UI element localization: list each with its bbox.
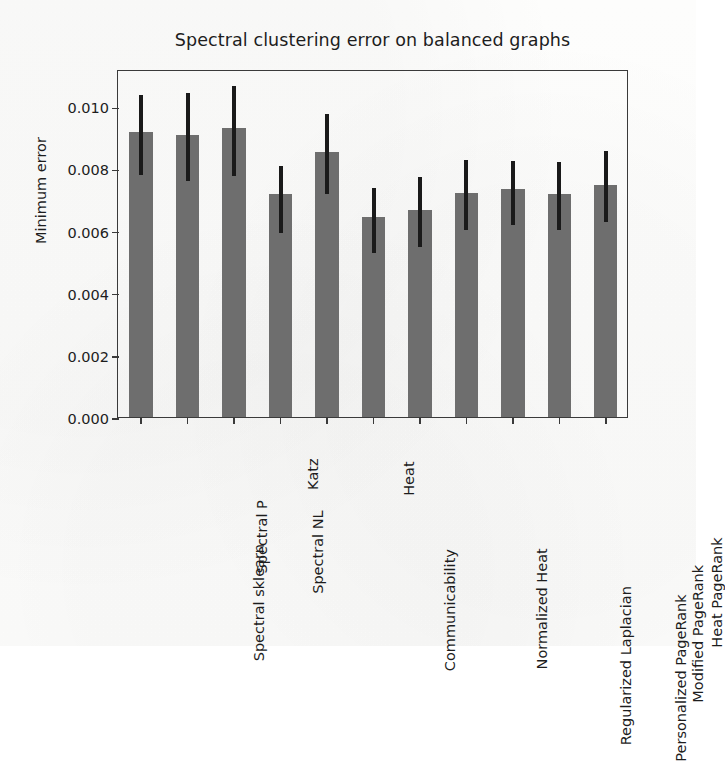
- error-bar: [511, 161, 515, 225]
- x-axis-tick-label: Communicability: [442, 549, 458, 671]
- error-bar: [604, 151, 608, 222]
- y-axis-tick: [112, 418, 119, 420]
- x-axis-tick: [559, 417, 561, 424]
- y-axis-tick-label: 0.002: [67, 349, 109, 365]
- y-axis-tick: [112, 170, 119, 172]
- x-axis-tick: [466, 417, 468, 424]
- error-bar: [186, 93, 190, 182]
- error-bar: [139, 95, 143, 175]
- x-axis-tick-label: Katz: [305, 458, 321, 489]
- x-axis-tick: [512, 417, 514, 424]
- error-bar: [418, 177, 422, 248]
- error-bar: [279, 166, 283, 233]
- y-axis-tick: [112, 108, 119, 110]
- x-axis-tick: [326, 417, 328, 424]
- x-axis-tick: [280, 417, 282, 424]
- error-bar: [464, 160, 468, 230]
- y-axis-tick: [112, 294, 119, 296]
- y-axis-tick: [112, 232, 119, 234]
- y-axis-tick-label: 0.010: [67, 100, 109, 116]
- y-axis-label: Minimum error: [33, 137, 49, 244]
- error-bar: [325, 114, 329, 194]
- x-axis-tick-label: Spectral NL: [311, 510, 327, 593]
- x-axis-tick-label: Personalized PageRank: [673, 594, 689, 761]
- y-axis-tick-label: 0.006: [67, 225, 109, 241]
- x-axis-tick-label: Regularized Laplacian: [619, 586, 635, 745]
- x-axis-tick: [140, 417, 142, 424]
- x-axis-tick-label: Spectral P: [254, 500, 270, 573]
- error-bar: [232, 86, 236, 176]
- chart-title: Spectral clustering error on balanced gr…: [117, 30, 628, 50]
- plot-area: 0.0000.0020.0040.0060.0080.010Spectral s…: [117, 70, 628, 418]
- y-axis-tick: [112, 356, 119, 358]
- error-bar: [557, 162, 561, 230]
- x-axis-tick: [187, 417, 189, 424]
- x-axis-tick: [233, 417, 235, 424]
- x-axis-tick-label: Normalized Heat: [534, 548, 550, 669]
- x-axis-tick: [605, 417, 607, 424]
- x-axis-tick-label: Heat: [401, 461, 417, 495]
- y-axis-tick-label: 0.004: [67, 287, 109, 303]
- x-axis-tick: [373, 417, 375, 424]
- x-axis-tick-label: Modified PageRank: [690, 565, 706, 703]
- x-axis-tick: [419, 417, 421, 424]
- error-bar: [372, 188, 376, 253]
- y-axis-tick-label: 0.000: [67, 411, 109, 427]
- plot-inner: 0.0000.0020.0040.0060.0080.010Spectral s…: [118, 71, 627, 417]
- x-axis-tick-label: Heat PageRank: [709, 537, 725, 647]
- y-axis-tick-label: 0.008: [67, 162, 109, 178]
